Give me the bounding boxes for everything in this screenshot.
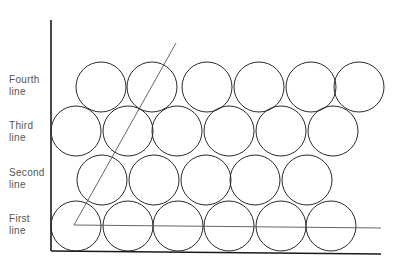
second-line-circle (181, 155, 231, 205)
label-text: First (9, 213, 30, 225)
label-text: Fourth (9, 74, 40, 86)
label-text: line (9, 132, 33, 144)
fourth-line-circle (76, 62, 126, 112)
third-line-circle (256, 106, 306, 156)
label-first-line: First line (9, 213, 30, 237)
second-line-circle (282, 155, 332, 205)
second-line-circle (129, 155, 179, 205)
label-text: line (9, 179, 45, 191)
second-line-circle (230, 155, 280, 205)
fourth-line-circle (286, 62, 336, 112)
label-text: Third (9, 120, 33, 132)
fourth-line-circle (182, 62, 232, 112)
label-text: line (9, 86, 40, 98)
base-line (74, 225, 381, 228)
fourth-line-circle (234, 62, 284, 112)
first-line-circle (256, 201, 306, 251)
diagonal-line (74, 43, 176, 225)
second-line-circle (77, 155, 127, 205)
third-line-circle (51, 106, 101, 156)
third-line-circle (204, 106, 254, 156)
circle-rows (51, 62, 384, 251)
third-line-circle (308, 106, 358, 156)
first-line-circle (51, 201, 101, 251)
first-line-circle (306, 201, 356, 251)
fourth-line-circle (127, 62, 177, 112)
label-third-line: Third line (9, 120, 33, 144)
third-line-circle (103, 106, 153, 156)
label-text: line (9, 225, 30, 237)
fourth-line-circle (334, 62, 384, 112)
third-line-circle (152, 106, 202, 156)
circle-packing-diagram (0, 0, 402, 268)
label-text: Second (9, 167, 45, 179)
label-second-line: Second line (9, 167, 45, 191)
label-fourth-line: Fourth line (9, 74, 40, 98)
